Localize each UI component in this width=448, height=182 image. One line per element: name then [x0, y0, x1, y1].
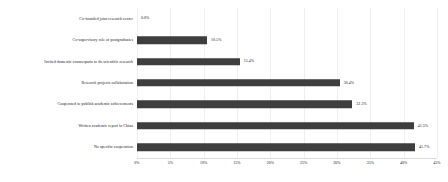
bar-track: 41.7%	[137, 144, 437, 152]
bar-value-label: 32.3%	[356, 102, 366, 107]
x-axis-tick-labels: 0%5%10%15%20%25%30%35%40%45%	[137, 160, 437, 174]
x-tick-label: 15%	[233, 160, 240, 166]
category-label: Research projects collaboration	[0, 80, 133, 85]
bar-track: 10.5%	[137, 36, 437, 44]
bar-chart: Co-founded joint research center0.0%Co-s…	[0, 0, 448, 182]
category-label: No specific cooperation	[0, 145, 133, 150]
bar	[137, 58, 240, 66]
bar	[137, 101, 352, 109]
bar-value-label: 15.4%	[244, 59, 254, 64]
plot-area: Co-founded joint research center0.0%Co-s…	[0, 0, 448, 182]
x-tick-label: 45%	[433, 160, 440, 166]
bar-row: Written academic report in China41.5%	[0, 115, 448, 136]
bar-value-label: 10.5%	[211, 38, 221, 43]
bar-value-label: 0.0%	[141, 16, 149, 21]
bar	[137, 36, 207, 44]
x-tick-label: 40%	[400, 160, 407, 166]
bar-value-label: 41.7%	[419, 145, 429, 150]
bar-row: Cooperated to publish academic achieveme…	[0, 94, 448, 115]
bar	[137, 79, 340, 87]
bar-row: Co-founded joint research center0.0%	[0, 8, 448, 29]
bar-row: Research projects collaboration30.4%	[0, 72, 448, 93]
bar-track: 32.3%	[137, 101, 437, 109]
category-label: Co-supervisory role of postgraduates	[0, 38, 133, 43]
x-tick-label: 0%	[134, 160, 139, 166]
x-tick-label: 25%	[300, 160, 307, 166]
x-tick-label: 30%	[333, 160, 340, 166]
bar-track: 15.4%	[137, 58, 437, 66]
bar-track: 41.5%	[137, 122, 437, 130]
bar-row: No specific cooperation41.7%	[0, 137, 448, 158]
x-tick-label: 20%	[267, 160, 274, 166]
bar-row: Co-supervisory role of postgraduates10.5…	[0, 29, 448, 50]
bar-row: Invited domestic counterparts to do scie…	[0, 51, 448, 72]
x-tick-label: 5%	[168, 160, 173, 166]
category-label: Invited domestic counterparts to do scie…	[0, 59, 133, 64]
category-label: Written academic report in China	[0, 123, 133, 128]
x-tick-label: 10%	[200, 160, 207, 166]
category-label: Cooperated to publish academic achieveme…	[0, 102, 133, 107]
bar-value-label: 41.5%	[418, 123, 428, 128]
bar-track: 0.0%	[137, 15, 437, 23]
x-tick-label: 35%	[367, 160, 374, 166]
bar-rows: Co-founded joint research center0.0%Co-s…	[0, 8, 448, 158]
x-axis-line	[137, 158, 437, 159]
bar	[137, 122, 414, 130]
bar	[137, 144, 415, 152]
bar-value-label: 30.4%	[344, 80, 354, 85]
bar-track: 30.4%	[137, 79, 437, 87]
category-label: Co-founded joint research center	[0, 16, 133, 21]
